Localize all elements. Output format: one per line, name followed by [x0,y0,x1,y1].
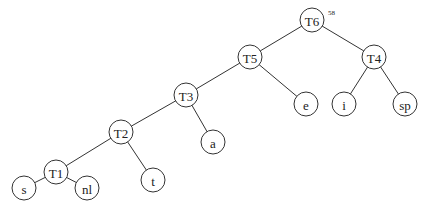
tree-node-T2: T2 [109,120,133,144]
node-label: T6 [305,14,320,29]
tree-node-a: a [201,130,225,154]
node-label: T1 [49,166,63,181]
tree-node-i: i [332,92,356,116]
tree-node-T3: T3 [174,83,198,107]
root-weight-label: 58 [328,9,336,17]
tree-node-T4: T4 [362,45,386,69]
huffman-tree-diagram: T6T5T4T3eispT2aT1tsnl 58 [0,0,427,211]
node-label: T5 [243,51,257,66]
node-label: a [210,136,216,151]
tree-node-nl: nl [75,176,99,200]
node-label: T2 [114,126,128,141]
node-label: T3 [179,89,193,104]
tree-node-e: e [294,92,318,116]
node-label: t [151,174,155,189]
tree-node-T1: T1 [44,160,68,184]
node-label: s [21,182,26,197]
node-label: T4 [367,51,382,66]
node-label: i [342,98,346,113]
node-label: sp [399,98,411,113]
node-label: nl [82,182,93,197]
tree-node-T6: T6 [300,8,324,32]
tree-node-s: s [12,176,36,200]
tree-node-t: t [141,168,165,192]
tree-node-sp: sp [393,92,417,116]
tree-node-T5: T5 [238,45,262,69]
tree-nodes: T6T5T4T3eispT2aT1tsnl [12,8,417,200]
node-label: e [303,98,309,113]
